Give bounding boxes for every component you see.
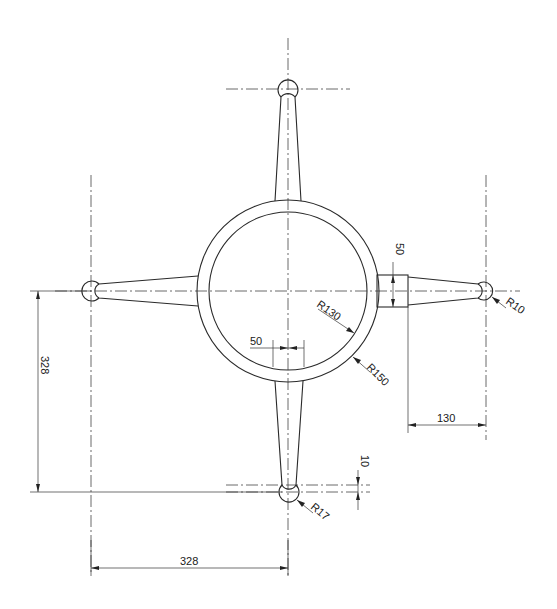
dimension-vertical-span: 328: [30, 291, 282, 492]
bottom-ball-radius-label: R17: [309, 500, 332, 522]
horizontal-span-label: 328: [180, 555, 198, 567]
dimension-outer-radius: R150: [353, 357, 392, 388]
vertical-span-label: 328: [39, 356, 51, 374]
dimension-inner-radius: R130: [315, 298, 354, 333]
dimension-bottom-ball-radius: R17: [297, 500, 332, 523]
bottom-arm: [275, 381, 303, 489]
dimension-right-ball-radius: R10: [492, 295, 527, 316]
center-lines: [55, 38, 520, 575]
boss-width-label: 50: [394, 243, 406, 255]
dimension-hub-offset: 50: [250, 335, 304, 367]
dimension-vertical-offset: 10: [356, 455, 371, 510]
vertical-offset-label: 10: [359, 455, 371, 467]
inner-radius-label: R130: [315, 298, 343, 323]
outer-radius-label: R150: [365, 361, 392, 388]
technical-drawing: 50 R10 R130 R150 50 130 10: [0, 0, 557, 609]
dimension-right-arm-length: 130: [408, 307, 486, 433]
right-ball-radius-label: R10: [504, 295, 527, 316]
dimension-horizontal-span: 328: [91, 540, 288, 576]
bottom-ball: [279, 485, 299, 502]
right-arm-length-label: 130: [437, 412, 455, 424]
hub-offset-label: 50: [250, 335, 262, 347]
